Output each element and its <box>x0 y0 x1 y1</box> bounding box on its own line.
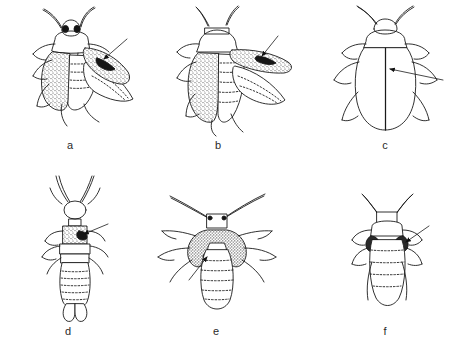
mesothorax-d <box>60 244 90 254</box>
head-d <box>64 201 86 219</box>
leader-arrow-f <box>406 226 429 242</box>
panel-caption-a: a <box>60 139 80 151</box>
cercus-right-d <box>75 304 87 321</box>
panel-caption-c: c <box>375 139 395 151</box>
antennae-d <box>56 176 94 202</box>
specimen-f <box>352 194 429 306</box>
antennae-c <box>357 6 414 24</box>
pronotum-f <box>371 221 403 236</box>
specimen-a <box>33 7 133 126</box>
head-c <box>374 19 397 34</box>
leader-arrow-a <box>104 39 127 59</box>
neck-d <box>69 219 81 226</box>
elytron-left-a <box>41 52 70 110</box>
plate-svg <box>0 0 462 354</box>
panel-caption-f: f <box>375 325 395 337</box>
pronotum-b <box>197 30 238 52</box>
panel-caption-d: d <box>58 325 78 337</box>
specimen-c <box>334 6 443 130</box>
metathorax-d <box>61 254 89 263</box>
figure-plate: a b c d e f <box>0 0 462 354</box>
panel-caption-b: b <box>208 139 228 151</box>
cercus-left-d <box>63 304 75 321</box>
eye-right-e <box>222 216 226 220</box>
specimen-b <box>177 6 291 136</box>
specimen-e <box>158 194 276 309</box>
antennae-a <box>43 7 95 28</box>
panel-caption-e: e <box>206 325 226 337</box>
leader-arrow-b <box>262 36 278 56</box>
abdomen-f <box>370 240 405 306</box>
pronotum-c <box>364 30 407 48</box>
specimen-d <box>42 176 108 321</box>
eye-left-e <box>208 216 212 220</box>
antennae-b <box>196 6 239 26</box>
